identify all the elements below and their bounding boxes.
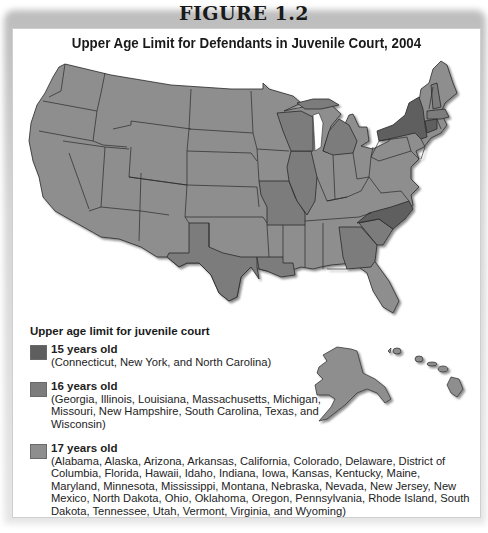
hawaii-maui — [438, 366, 448, 372]
legend-states-15: (Connecticut, New York, and North Caroli… — [51, 356, 351, 369]
legend-states-16: (Georgia, Illinois, Louisiana, Massachus… — [51, 393, 321, 431]
legend-label-16: 16 years old — [51, 380, 321, 393]
legend-states-17: (Alabama, Alaska, Arizona, Arkansas, Cal… — [51, 455, 471, 518]
legend-heading: Upper age limit for juvenile court — [30, 325, 210, 337]
figure-panel: Upper Age Limit for Defendants in Juveni… — [12, 28, 481, 518]
legend-swatch-17 — [30, 444, 47, 459]
legend-swatch-15 — [30, 345, 47, 360]
state-new-york — [377, 97, 427, 141]
legend-label-17: 17 years old — [51, 442, 471, 455]
hawaii-niihau — [388, 348, 391, 353]
hawaii-oahu — [415, 356, 423, 362]
legend-swatch-16 — [30, 382, 47, 397]
state-massachusetts — [427, 109, 449, 119]
hawaii-molokai — [427, 362, 437, 366]
hawaii-big-island — [447, 377, 463, 397]
hawaii-kauai — [393, 348, 401, 354]
figure-label: FIGURE 1.2 — [0, 2, 488, 24]
legend-label-15: 15 years old — [51, 343, 351, 356]
